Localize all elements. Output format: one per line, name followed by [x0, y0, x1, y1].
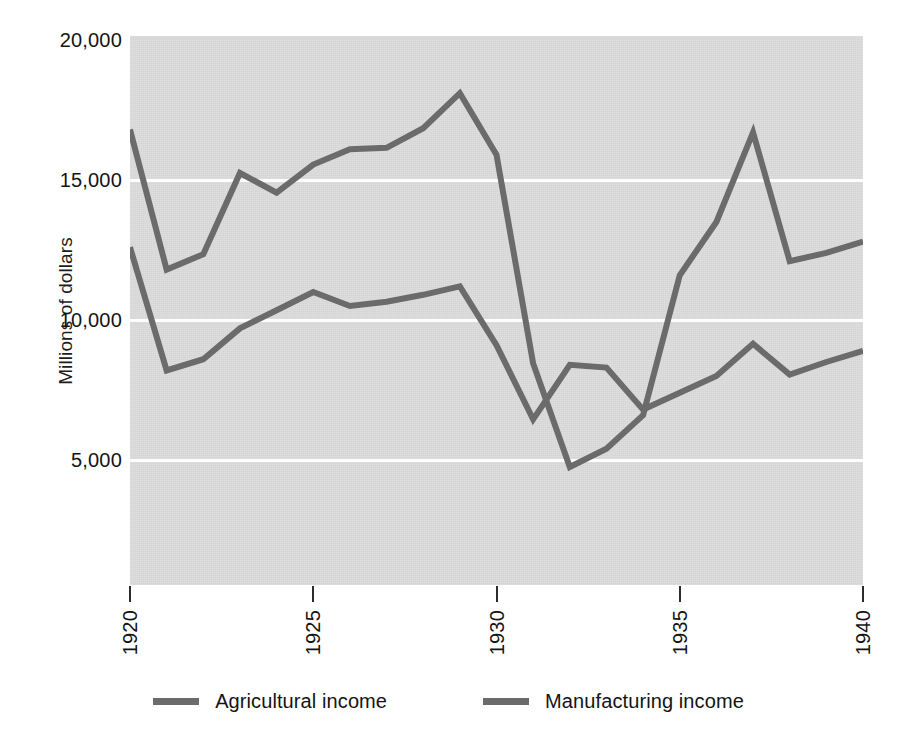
legend-label: Agricultural income: [215, 690, 387, 713]
chart-legend: Agricultural incomeManufacturing income: [0, 690, 897, 713]
x-tick-mark: [862, 586, 864, 602]
y-tick-label: 10,000: [2, 309, 122, 332]
y-axis-tick-labels: 5,00010,00015,00020,000: [0, 0, 122, 743]
legend-item: Manufacturing income: [483, 690, 744, 713]
chart-container: Millions of dollars 5,00010,00015,00020,…: [0, 0, 897, 743]
x-tick-mark: [679, 586, 681, 602]
x-tick-label: 1930: [486, 610, 509, 655]
series-line: [130, 247, 863, 419]
data-lines: [130, 36, 863, 585]
x-tick-label: 1935: [669, 610, 692, 655]
y-tick-label: 15,000: [2, 169, 122, 192]
y-tick-label: 20,000: [2, 29, 122, 52]
series-line: [130, 93, 863, 467]
legend-swatch-icon: [483, 698, 529, 705]
x-tick-label: 1925: [302, 610, 325, 655]
plot-area: [130, 36, 863, 585]
y-tick-label: 5,000: [2, 449, 122, 472]
legend-label: Manufacturing income: [545, 690, 744, 713]
x-tick-label: 1940: [852, 610, 875, 655]
legend-swatch-icon: [153, 698, 199, 705]
x-tick-mark: [496, 586, 498, 602]
x-tick-mark: [129, 586, 131, 602]
x-tick-label: 1920: [119, 610, 142, 655]
x-tick-mark: [312, 586, 314, 602]
legend-item: Agricultural income: [153, 690, 387, 713]
